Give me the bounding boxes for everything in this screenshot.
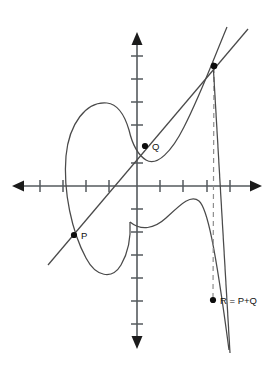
elliptic-curve-figure: P Q R = P+Q xyxy=(0,0,271,365)
point-p-label: P xyxy=(81,230,87,241)
point-r-label: R = P+Q xyxy=(220,295,257,306)
point-q-label: Q xyxy=(152,141,159,152)
elliptic-curve-oval-component xyxy=(65,103,130,275)
point-minus-r-marker[interactable] xyxy=(211,63,218,70)
point-q-marker[interactable] xyxy=(142,143,148,149)
point-p-marker[interactable] xyxy=(71,232,77,238)
curve-canvas: P Q R = P+Q xyxy=(0,0,271,365)
elliptic-curve-upper-branch xyxy=(107,27,227,162)
point-r-marker[interactable] xyxy=(210,297,216,303)
elliptic-curve-lower-branch xyxy=(130,199,229,350)
x-axis-left-arrow-icon xyxy=(12,181,24,192)
line-to-r xyxy=(213,62,230,353)
vertical-dashed-connector xyxy=(213,68,214,298)
y-axis-down-arrow-icon xyxy=(132,336,143,349)
y-axis-up-arrow-icon xyxy=(132,32,143,45)
x-axis-right-arrow-icon xyxy=(250,181,262,192)
y-axis-group xyxy=(131,32,143,349)
